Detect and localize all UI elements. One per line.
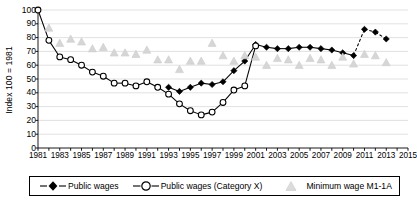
x-tick-label: 1987 bbox=[94, 152, 112, 160]
data-point-marker bbox=[361, 26, 367, 32]
x-tick-label: 2011 bbox=[356, 152, 374, 160]
data-point-marker bbox=[273, 54, 281, 61]
x-tick-label: 2015 bbox=[399, 152, 417, 160]
data-point-marker bbox=[296, 44, 302, 50]
data-point-marker bbox=[219, 52, 227, 59]
legend-label-public-wages: Public wages bbox=[68, 181, 119, 191]
filled-diamond-marker-icon bbox=[38, 179, 68, 193]
data-point-marker bbox=[209, 109, 215, 115]
data-point-marker bbox=[274, 46, 280, 52]
data-point-marker bbox=[350, 52, 356, 58]
x-tick-label: 2009 bbox=[334, 152, 352, 160]
data-point-marker bbox=[253, 43, 259, 49]
data-point-marker bbox=[372, 29, 378, 35]
x-tick-label: 1995 bbox=[181, 152, 199, 160]
chart-legend: Public wages Public wages (Category X) M… bbox=[29, 176, 400, 196]
data-point-marker bbox=[88, 45, 96, 52]
data-point-marker bbox=[231, 87, 237, 93]
data-point-marker bbox=[99, 43, 107, 50]
legend-item-public-wages-category-x[interactable]: Public wages (Category X) bbox=[131, 177, 263, 195]
x-tick-label: 1981 bbox=[29, 152, 47, 160]
legend-label-minimum-wage: Minimum wage M1-1A bbox=[306, 181, 391, 191]
data-point-marker bbox=[155, 84, 161, 90]
legend-item-public-wages[interactable]: Public wages bbox=[38, 177, 119, 195]
data-point-marker bbox=[284, 56, 292, 63]
x-tick-label: 2013 bbox=[377, 152, 395, 160]
data-point-marker bbox=[165, 56, 173, 63]
data-point-marker bbox=[57, 54, 63, 60]
data-point-marker bbox=[165, 84, 171, 90]
data-point-marker bbox=[122, 80, 128, 86]
data-point-marker bbox=[198, 112, 204, 118]
data-point-marker bbox=[90, 69, 96, 75]
data-point-marker bbox=[197, 57, 205, 64]
x-tick-label: 1991 bbox=[138, 152, 156, 160]
data-point-marker bbox=[318, 46, 324, 52]
data-point-marker bbox=[186, 57, 194, 64]
data-point-marker bbox=[230, 57, 238, 64]
data-point-marker bbox=[306, 54, 314, 61]
x-tick-label: 1985 bbox=[72, 152, 90, 160]
legend-label-public-wages-category-x: Public wages (Category X) bbox=[161, 181, 263, 191]
data-point-marker bbox=[177, 101, 183, 107]
legend-item-minimum-wage[interactable]: Minimum wage M1-1A bbox=[276, 177, 391, 195]
x-tick-label: 2001 bbox=[247, 152, 265, 160]
data-point-marker bbox=[329, 47, 335, 53]
data-point-marker bbox=[175, 65, 183, 72]
data-point-marker bbox=[46, 37, 52, 43]
data-point-marker bbox=[166, 91, 172, 97]
data-point-marker bbox=[307, 44, 313, 50]
data-point-marker bbox=[143, 46, 151, 53]
x-tick-label: 1999 bbox=[225, 152, 243, 160]
x-tick-label: 1989 bbox=[116, 152, 134, 160]
x-axis-tick-labels: 1981198319851987198919911993199519971999… bbox=[0, 152, 413, 168]
data-point-marker bbox=[383, 36, 389, 42]
data-point-marker bbox=[78, 38, 86, 45]
data-point-marker bbox=[35, 7, 41, 13]
x-tick-label: 2005 bbox=[290, 152, 308, 160]
data-point-marker bbox=[110, 49, 118, 56]
data-point-marker bbox=[56, 39, 64, 46]
data-point-marker bbox=[133, 83, 139, 89]
data-point-marker bbox=[242, 83, 248, 89]
data-point-marker bbox=[220, 100, 226, 106]
data-point-marker bbox=[144, 79, 150, 85]
data-point-marker bbox=[187, 108, 193, 114]
x-tick-label: 2007 bbox=[312, 152, 330, 160]
x-tick-label: 1993 bbox=[159, 152, 177, 160]
data-point-marker bbox=[45, 24, 53, 31]
x-tick-label: 1997 bbox=[203, 152, 221, 160]
light-triangle-marker-icon bbox=[276, 179, 306, 193]
data-point-marker bbox=[121, 49, 129, 56]
data-point-marker bbox=[154, 56, 162, 63]
data-point-marker bbox=[208, 39, 216, 46]
data-point-marker bbox=[263, 44, 269, 50]
data-point-marker bbox=[79, 62, 85, 68]
x-tick-label: 1983 bbox=[51, 152, 69, 160]
data-point-marker bbox=[371, 52, 379, 59]
data-point-marker bbox=[198, 80, 204, 86]
data-point-marker bbox=[209, 81, 215, 87]
data-point-marker bbox=[382, 58, 390, 65]
data-point-marker bbox=[350, 60, 358, 67]
data-point-marker bbox=[68, 57, 74, 63]
data-point-marker bbox=[187, 84, 193, 90]
data-point-marker bbox=[111, 80, 117, 86]
x-tick-label: 2003 bbox=[268, 152, 286, 160]
data-point-marker bbox=[100, 73, 106, 79]
data-point-marker bbox=[67, 35, 75, 42]
data-point-marker bbox=[176, 88, 182, 94]
open-circle-marker-icon bbox=[131, 179, 161, 193]
data-point-marker bbox=[285, 46, 291, 52]
data-point-marker bbox=[241, 52, 249, 59]
data-point-marker bbox=[317, 56, 325, 63]
series-line-segment bbox=[38, 10, 49, 40]
